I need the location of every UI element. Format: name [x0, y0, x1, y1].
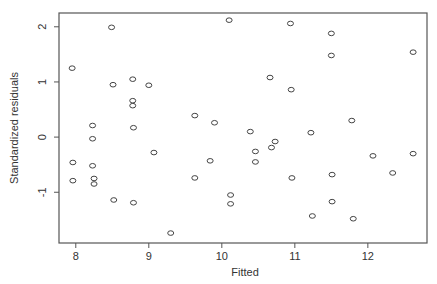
data-point — [110, 82, 116, 87]
data-point — [91, 176, 97, 181]
x-tick-label: 12 — [362, 250, 374, 262]
data-point — [247, 129, 253, 134]
plot-frame — [59, 13, 427, 243]
data-point — [410, 50, 416, 55]
x-axis-title: Fitted — [231, 266, 259, 278]
data-point — [329, 172, 335, 177]
data-point — [252, 160, 258, 165]
y-axis: -1012 — [36, 24, 59, 197]
y-tick-label: 0 — [36, 134, 48, 140]
data-point — [328, 53, 334, 58]
data-point — [287, 21, 293, 26]
data-point — [109, 25, 115, 30]
data-point — [349, 118, 355, 123]
data-point — [90, 163, 96, 168]
data-point — [69, 66, 75, 71]
x-axis: 89101112 — [73, 243, 374, 262]
data-point — [252, 149, 258, 154]
data-point — [90, 136, 96, 141]
data-point — [90, 123, 96, 128]
data-point — [146, 83, 152, 88]
y-tick-label: -1 — [36, 187, 48, 197]
data-point — [130, 98, 136, 103]
data-point — [207, 159, 213, 164]
data-point — [130, 200, 136, 205]
data-point — [288, 87, 294, 92]
data-point — [390, 171, 396, 176]
data-point — [130, 125, 136, 130]
data-point — [228, 193, 234, 198]
data-point — [130, 77, 136, 82]
x-tick-label: 8 — [73, 250, 79, 262]
data-point — [410, 151, 416, 156]
data-point — [130, 103, 136, 108]
data-point — [289, 176, 295, 181]
y-axis-title: Standardized residuals — [8, 72, 20, 184]
data-point — [272, 139, 278, 144]
data-point — [350, 216, 356, 221]
data-point — [192, 113, 198, 118]
data-point — [267, 75, 273, 80]
y-tick-label: 1 — [36, 79, 48, 85]
data-point — [192, 176, 198, 181]
data-point — [309, 214, 315, 219]
data-point — [308, 130, 314, 135]
data-point — [226, 18, 232, 23]
data-point — [70, 160, 76, 165]
data-point — [370, 154, 376, 159]
data-points — [69, 18, 416, 236]
x-tick-label: 9 — [146, 250, 152, 262]
residual-scatter-plot: 89101112 -1012 Fitted Standardized resid… — [0, 0, 437, 284]
data-point — [212, 120, 218, 125]
data-point — [328, 31, 334, 36]
data-point — [329, 199, 335, 204]
data-point — [111, 198, 117, 203]
data-point — [70, 178, 76, 183]
data-point — [228, 202, 234, 207]
data-point — [168, 231, 174, 236]
x-tick-label: 11 — [289, 250, 300, 262]
data-point — [268, 145, 274, 150]
x-tick-label: 10 — [216, 250, 228, 262]
y-tick-label: 2 — [36, 24, 48, 30]
data-point — [91, 182, 97, 187]
data-point — [151, 150, 157, 155]
